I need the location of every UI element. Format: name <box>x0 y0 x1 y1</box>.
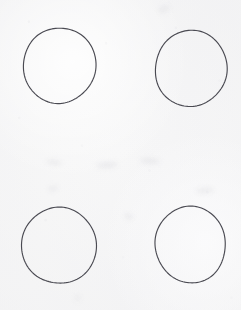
circle-bottom-right <box>155 206 225 283</box>
circle-top-right <box>155 30 227 106</box>
circle-bottom-left <box>22 207 97 283</box>
circle-top-left <box>23 28 96 103</box>
scanned-sheet <box>0 0 241 310</box>
hand-drawn-circle-group <box>22 28 228 283</box>
circle-drawing-layer <box>0 0 241 310</box>
